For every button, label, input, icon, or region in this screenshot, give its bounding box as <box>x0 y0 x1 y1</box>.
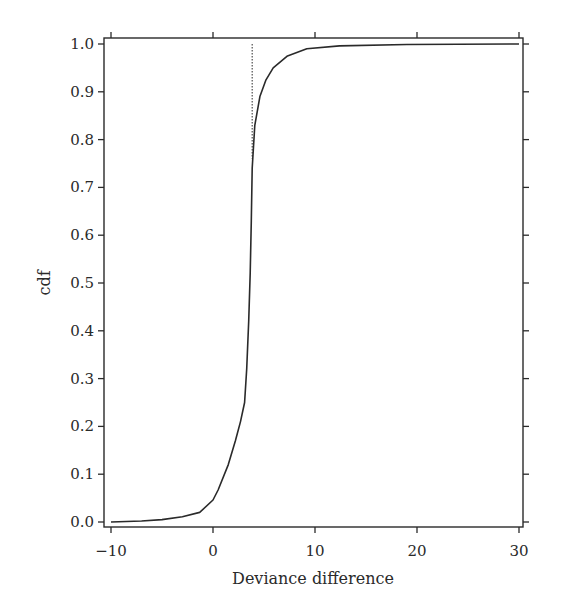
y-tick-label: 1.0 <box>70 35 94 53</box>
x-tick-label: 30 <box>509 542 528 560</box>
y-tick-label: 0.7 <box>70 178 94 196</box>
y-tick-label: 0.4 <box>70 322 94 340</box>
y-tick-label: 0.3 <box>70 370 94 388</box>
x-axis-label: Deviance difference <box>232 569 394 588</box>
x-tick-label: 10 <box>305 542 324 560</box>
y-tick-label: 0.0 <box>70 513 94 531</box>
y-tick-label: 0.2 <box>70 417 94 435</box>
y-axis-tick-labels: 0.00.10.20.30.40.50.60.70.80.91.0 <box>70 35 94 531</box>
x-axis-tick-labels: −100102030 <box>95 542 528 560</box>
y-tick-label: 0.8 <box>70 131 94 149</box>
x-tick-label: 0 <box>208 542 218 560</box>
x-tick-label: −10 <box>95 542 127 560</box>
y-axis-ticks <box>98 44 529 522</box>
y-tick-label: 0.6 <box>70 226 94 244</box>
plot-frame <box>104 38 523 527</box>
y-tick-label: 0.5 <box>70 274 94 292</box>
cdf-curve <box>111 44 519 522</box>
cdf-chart: −100102030 0.00.10.20.30.40.50.60.70.80.… <box>0 0 562 613</box>
y-tick-label: 0.1 <box>70 465 94 483</box>
y-tick-label: 0.9 <box>70 83 94 101</box>
x-axis-ticks <box>111 32 519 533</box>
y-axis-label: cdf <box>35 269 54 295</box>
x-tick-label: 20 <box>407 542 426 560</box>
